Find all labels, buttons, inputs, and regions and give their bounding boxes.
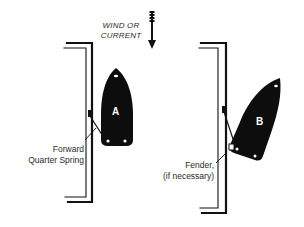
fender-annotation: Fender, (if necessary)	[154, 160, 214, 182]
boat-a-label: A	[112, 106, 119, 117]
dock-left	[64, 43, 92, 202]
spring-annotation: Forward Quarter Spring	[22, 144, 84, 166]
fender-annotation-line-2: (if necessary)	[154, 171, 214, 182]
wind-label: WIND OR CURRENT	[100, 21, 142, 41]
spring-annotation-line-1: Forward	[22, 144, 84, 155]
dock-diagram: WIND OR CURRENT A B Forward Quarter Spri…	[0, 0, 304, 227]
boat-b	[230, 78, 281, 161]
boat-b-label: B	[256, 116, 263, 127]
wind-arrow-icon	[148, 11, 156, 49]
wind-label-line-1: WIND OR	[100, 21, 142, 31]
fender-annotation-line-1: Fender,	[154, 160, 214, 171]
wind-label-line-2: CURRENT	[100, 31, 142, 41]
diagram-graphics	[0, 0, 304, 227]
spring-annotation-line-2: Quarter Spring	[22, 155, 84, 166]
dock-right	[199, 43, 226, 213]
